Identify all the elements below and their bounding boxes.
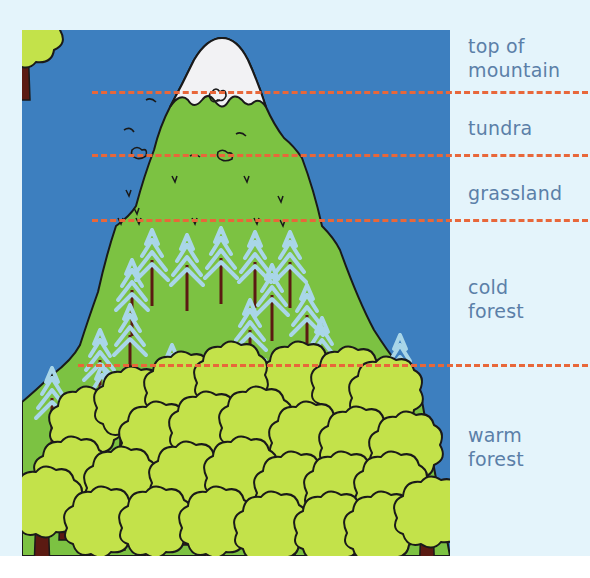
label-cold-forest: cold forest xyxy=(468,275,524,323)
mountain-svg xyxy=(22,30,450,556)
label-top-of-mountain: top of mountain xyxy=(468,34,560,82)
label-warm-forest: warm forest xyxy=(468,423,524,471)
divider-grassland-cold-forest xyxy=(92,219,588,222)
label-tundra: tundra xyxy=(468,116,532,140)
label-grassland: grassland xyxy=(468,181,562,205)
bottom-strip xyxy=(0,556,590,578)
divider-top-tundra xyxy=(92,91,588,94)
divider-tundra-grassland xyxy=(92,154,588,157)
mountain-illustration xyxy=(22,30,450,556)
divider-cold-warm-forest xyxy=(78,364,588,367)
